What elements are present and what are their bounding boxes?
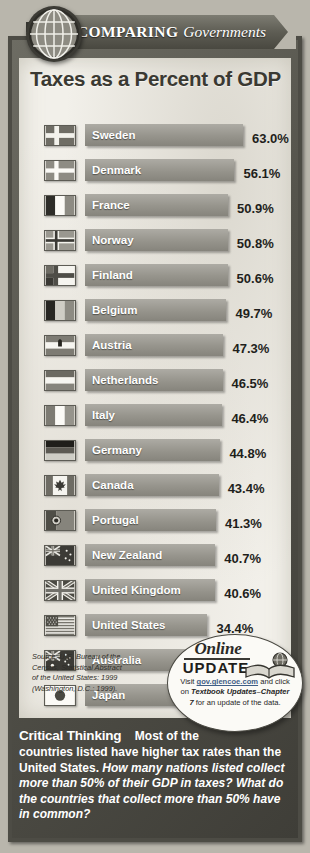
chart-bar: Canada [85, 474, 219, 496]
chart-row: Finland50.6% [19, 260, 291, 295]
value-label: 49.7% [235, 305, 272, 320]
page-title: Taxes as a Percent of GDP [30, 67, 286, 91]
value-label: 46.5% [232, 375, 269, 390]
source-line-2: Census, Statistical Abstract [32, 663, 164, 674]
chart-row: Belgium49.7% [19, 295, 291, 330]
ribbon-notch [274, 15, 296, 49]
chart-bar: Netherlands [85, 369, 223, 391]
chart-bar: New Zealand [85, 544, 215, 566]
chart-bar: Germany [85, 439, 220, 461]
chart-bar: Finland [85, 264, 228, 286]
source-citation: Source: U.S. Bureau of the Census, Stati… [32, 652, 164, 695]
chart-bar: Norway [85, 229, 228, 251]
value-label: 63.0% [252, 130, 289, 145]
book-globe-icon [244, 652, 296, 682]
country-label: Denmark [92, 164, 141, 176]
badge-visit-label: Visit [180, 677, 194, 686]
chart-row: Sweden63.0% [19, 120, 291, 155]
value-label: 50.6% [237, 270, 274, 285]
country-label: Sweden [92, 129, 135, 141]
bar-chart: Sweden63.0%Denmark56.1%France50.9%Norway… [19, 120, 291, 715]
country-label: Canada [92, 479, 134, 491]
value-label: 43.4% [228, 480, 265, 495]
chart-bar: Portugal [85, 509, 216, 531]
flag-italy-icon [44, 405, 76, 426]
flag-new-zealand-icon [44, 545, 76, 566]
country-label: Italy [92, 409, 115, 421]
chart-row: Denmark56.1% [19, 155, 291, 190]
country-label: Germany [92, 444, 142, 456]
flag-norway-icon [44, 230, 76, 251]
source-line-3: of the United States: 1999 [32, 673, 164, 684]
flag-germany-icon [44, 440, 76, 461]
chart-bar: France [85, 194, 228, 216]
country-label: Austria [92, 339, 132, 351]
chart-bar: United States [85, 614, 207, 636]
critical-thinking-heading: Critical Thinking [19, 728, 121, 743]
globe-icon [24, 4, 84, 64]
critical-thinking-lead: Most of the [135, 729, 199, 743]
value-label: 40.6% [224, 585, 261, 600]
critical-thinking-body: countries listed have higher tax rates t… [19, 745, 291, 823]
country-label: Portugal [92, 514, 139, 526]
chart-row: New Zealand40.7% [19, 540, 291, 575]
flag-austria-icon [44, 335, 76, 356]
chart-row: Norway50.8% [19, 225, 291, 260]
value-label: 47.3% [232, 340, 269, 355]
chart-row: Canada43.4% [19, 470, 291, 505]
country-label: New Zealand [92, 549, 162, 561]
value-label: 50.9% [237, 200, 274, 215]
chart-bar: Italy [85, 404, 222, 426]
value-label: 41.3% [225, 515, 262, 530]
value-label: 50.8% [237, 235, 274, 250]
flag-canada-icon [44, 475, 76, 496]
flag-belgium-icon [44, 300, 76, 321]
critical-thinking-section: Critical Thinking Most of the countries … [19, 726, 291, 832]
online-update-badge[interactable]: Online UPDATE Visit gov.glencoe.com and … [167, 634, 303, 732]
chart-row: Netherlands46.5% [19, 365, 291, 400]
chart-row: Austria47.3% [19, 330, 291, 365]
country-label: Finland [92, 269, 133, 281]
chart-bar: Austria [85, 334, 223, 356]
flag-finland-icon [44, 265, 76, 286]
banner-word-governments: Governments [183, 23, 266, 41]
comparing-governments-infographic: COMPARING Governments Taxes as a Percent… [0, 0, 310, 853]
country-label: United Kingdom [92, 584, 181, 596]
flag-united-states-icon [44, 615, 76, 636]
chart-bar: Belgium [85, 299, 226, 321]
country-label: Belgium [92, 304, 137, 316]
badge-tail: for an update of the data. [196, 698, 281, 707]
value-label: 46.4% [231, 410, 268, 425]
chart-row: France50.9% [19, 190, 291, 225]
source-line-4: (Washington, D.C.: 1999). [32, 684, 164, 695]
value-label: 40.7% [224, 550, 261, 565]
flag-united-kingdom-icon [44, 580, 76, 601]
banner-word-comparing: COMPARING [77, 23, 178, 41]
chart-bar: United Kingdom [85, 579, 215, 601]
flag-denmark-icon [44, 160, 76, 181]
chart-bar: Denmark [85, 159, 234, 181]
flag-portugal-icon [44, 510, 76, 531]
country-label: Netherlands [92, 374, 158, 386]
chart-row: Germany44.8% [19, 435, 291, 470]
flag-france-icon [44, 195, 76, 216]
value-label: 34.4% [216, 620, 253, 635]
flag-netherlands-icon [44, 370, 76, 391]
chart-row: United Kingdom40.6% [19, 575, 291, 610]
country-label: United States [92, 619, 166, 631]
value-label: 44.8% [229, 445, 266, 460]
chart-row: Italy46.4% [19, 400, 291, 435]
value-label: 56.1% [243, 165, 280, 180]
chart-bar: Sweden [85, 124, 243, 146]
flag-sweden-icon [44, 125, 76, 146]
source-line-1: Source: U.S. Bureau of the [32, 652, 164, 663]
country-label: France [92, 199, 130, 211]
country-label: Norway [92, 234, 134, 246]
chart-row: Portugal41.3% [19, 505, 291, 540]
